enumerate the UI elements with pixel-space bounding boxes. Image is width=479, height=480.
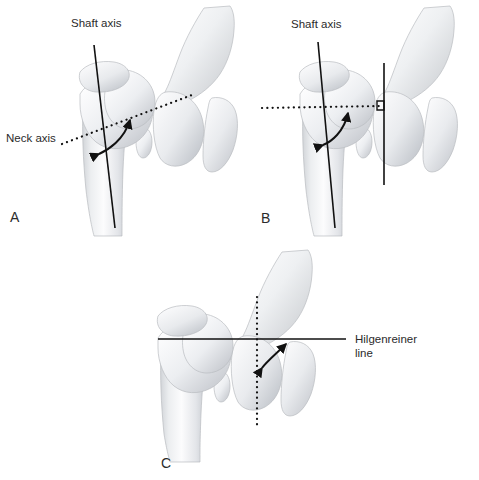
ilium-bone-c xyxy=(241,250,313,350)
shaft-axis-label-a: Shaft axis xyxy=(71,17,122,29)
acetabulum-bone-b xyxy=(373,92,423,166)
ilium-bone-a xyxy=(163,6,235,106)
figure-container: Shaft axis Neck axis A xyxy=(0,0,479,480)
acetabulum-bone-c xyxy=(231,336,281,410)
shaft-axis-label-b: Shaft axis xyxy=(291,18,342,30)
hilgenreiner-label-line1: Hilgenreiner xyxy=(355,333,417,345)
panel-letter-c: C xyxy=(161,455,171,471)
ischium-bone-b xyxy=(423,98,457,173)
panel-letter-b: B xyxy=(261,210,270,226)
ischium-bone-c xyxy=(281,342,315,417)
acetabulum-bone-a xyxy=(153,92,203,166)
ilium-bone-b xyxy=(383,6,455,106)
panel-letter-a: A xyxy=(10,209,20,225)
panel-a: Shaft axis Neck axis A xyxy=(6,6,237,236)
hilgenreiner-label-line2: line xyxy=(355,347,373,359)
panel-c: Hilgenreiner line C xyxy=(157,250,420,471)
neck-axis-label-a: Neck axis xyxy=(6,132,56,144)
hip-angle-figure: Shaft axis Neck axis A xyxy=(0,0,479,480)
hilgenreiner-line-label-c: Hilgenreiner line xyxy=(355,333,420,359)
panel-b: Shaft axis B xyxy=(261,6,457,236)
ischium-bone-a xyxy=(203,98,237,173)
